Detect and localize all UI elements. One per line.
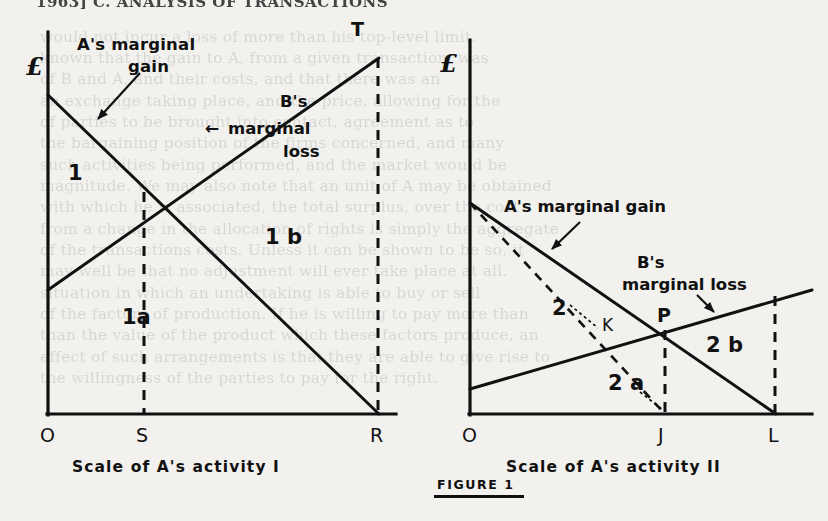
panel-left-region-label-1: 1	[68, 161, 83, 185]
panel-left-y-axis-label: £	[26, 52, 43, 81]
panel-right-y-axis-label: £	[440, 49, 457, 78]
panel-left-point-label-T: T	[351, 18, 364, 40]
panel-left-point-label-O: O	[40, 424, 55, 446]
panel-right-b-loss-label-line2: marginal loss	[622, 275, 747, 294]
panel-right-region-label-2a: 2 a	[608, 371, 644, 395]
panel-right-x-axis-caption: Scale of A's activity II	[506, 458, 721, 476]
panel-left-x-axis-caption: Scale of A's activity I	[72, 458, 280, 476]
panel-left-b-loss-arrow-glyph: ←	[205, 118, 219, 138]
panel-right-point-label-J: J	[657, 424, 664, 446]
panel-right-b-loss-arrow	[697, 295, 714, 312]
figure-1-graphic: £ A's marginal gain B's ← marginal loss …	[0, 0, 828, 521]
figure-caption: FIGURE 1	[437, 477, 515, 492]
panel-left-b-loss-label-line3: loss	[283, 142, 320, 161]
panel-right-point-label-L: L	[768, 424, 779, 446]
panel-right-point-label-K: K	[602, 315, 614, 335]
panel-right-region-label-2b: 2 b	[706, 333, 743, 357]
panel-right-point-label-O: O	[462, 424, 477, 446]
panel-left-b-loss-label-line1: B's	[280, 92, 308, 111]
panel-left-point-label-R: R	[370, 424, 383, 446]
page-background: would not incur a loss of more than his …	[0, 0, 828, 521]
panel-left-region-label-1b: 1 b	[265, 225, 302, 249]
panel-left: £ A's marginal gain B's ← marginal loss …	[26, 18, 396, 476]
panel-right-a-gain-label: A's marginal gain	[504, 197, 666, 216]
panel-right-a-gain-arrow	[552, 222, 580, 249]
panel-left-a-gain-label-line1: A's marginal	[77, 35, 195, 54]
panel-right-point-label-P: P	[657, 304, 671, 326]
figure-caption-underline	[434, 495, 524, 498]
panel-left-region-label-1a: 1a	[122, 305, 151, 329]
panel-left-a-gain-label-line2: gain	[128, 57, 169, 76]
panel-right: £ A's marginal gain B's marginal loss 2 …	[440, 40, 812, 476]
panel-right-b-loss-label-line1: B's	[637, 253, 665, 272]
panel-right-region-label-2: 2	[552, 296, 567, 320]
panel-left-b-loss-label-line2: marginal	[228, 119, 310, 138]
panel-left-point-label-S: S	[136, 424, 148, 446]
panel-left-a-gain-arrow	[98, 73, 140, 119]
